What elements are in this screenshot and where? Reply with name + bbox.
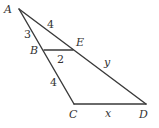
measure-ed: y bbox=[103, 56, 111, 69]
vertex-label-e: E bbox=[75, 36, 84, 49]
vertex-label-c: C bbox=[69, 108, 78, 121]
vertex-label-b: B bbox=[29, 44, 38, 57]
measure-ae: 4 bbox=[47, 18, 54, 31]
vertex-label-d: D bbox=[138, 108, 148, 121]
triangle-diagram: A B E C D 4 3 2 4 y x bbox=[0, 0, 159, 128]
measure-bc: 4 bbox=[50, 76, 57, 89]
measure-be: 2 bbox=[57, 53, 64, 66]
measure-ab: 3 bbox=[24, 28, 31, 41]
measure-cd: x bbox=[105, 107, 112, 120]
vertex-label-a: A bbox=[3, 3, 12, 16]
